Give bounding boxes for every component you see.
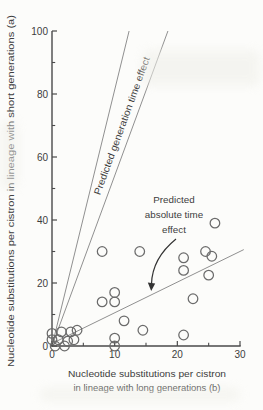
data-point (204, 270, 214, 280)
data-point (138, 325, 148, 335)
y-tick-label: 60 (37, 152, 49, 163)
absolute-time-annotation: Predicted (153, 194, 194, 205)
y-tick-label: 100 (31, 26, 48, 37)
data-point (110, 288, 120, 298)
data-point (72, 325, 82, 335)
data-point (179, 253, 189, 263)
data-point (179, 330, 189, 340)
chart-svg: 0102030020406080100Nucleotide substituti… (0, 0, 263, 410)
y-tick-label: 40 (37, 215, 49, 226)
data-point (179, 266, 189, 276)
data-point (188, 294, 198, 304)
y-tick-label: 20 (37, 278, 49, 289)
absolute-time-annotation: absolute time (145, 209, 204, 220)
annotation-arrowhead (148, 283, 155, 291)
x-axis-title: in lineage with long generations (b) (74, 382, 221, 393)
x-axis-title: Nucleotide substitutions per cistron (68, 368, 226, 379)
data-point (97, 247, 107, 257)
generation-time-annotation: Predicted generation time effect (92, 55, 152, 196)
x-tick-label: 30 (234, 349, 246, 360)
data-point (69, 335, 79, 345)
absolute-time-annotation: effect (162, 224, 186, 235)
data-point (210, 218, 220, 228)
data-point (201, 247, 211, 257)
scatter-figure: 0102030020406080100Nucleotide substituti… (0, 0, 263, 410)
annotation-arrow (152, 239, 177, 284)
x-tick-label: 20 (172, 349, 184, 360)
data-point (135, 247, 145, 257)
data-point (207, 251, 217, 261)
data-point (119, 316, 129, 326)
y-axis-title: Nucleotide substitutions per cistron in … (5, 15, 16, 367)
generation-time-lower-line (52, 31, 168, 346)
data-point (97, 297, 107, 307)
y-tick-label: 80 (37, 89, 49, 100)
data-point (110, 297, 120, 307)
